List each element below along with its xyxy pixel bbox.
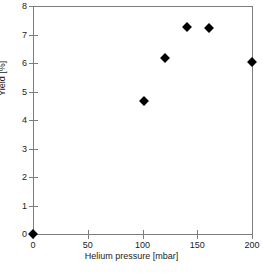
y-tick-label: 5 (22, 87, 27, 96)
x-tick-label: 0 (30, 241, 35, 250)
data-point-marker (139, 96, 149, 106)
y-tick-label: 7 (22, 30, 27, 39)
y-tick (29, 6, 38, 7)
y-tick-label: 4 (22, 116, 27, 125)
x-tick (252, 230, 253, 239)
x-tick-label: 150 (190, 241, 205, 250)
y-tick-label: 2 (22, 173, 27, 182)
y-tick-label: 6 (22, 59, 27, 68)
y-axis-title: Yield [%] (0, 61, 7, 96)
data-point-marker (161, 53, 171, 63)
y-tick (29, 92, 38, 93)
y-tick (29, 149, 38, 150)
data-point-marker (204, 23, 214, 33)
y-tick (29, 35, 38, 36)
y-tick (29, 120, 38, 121)
x-axis-title: Helium pressure [mbar] (0, 252, 263, 261)
y-tick (29, 177, 38, 178)
plot-area: 012345678 050100150200 (33, 6, 252, 234)
y-tick-label: 0 (22, 230, 27, 239)
x-tick-label: 100 (135, 241, 150, 250)
x-tick (197, 230, 198, 239)
data-point-marker (182, 22, 192, 32)
x-tick (88, 230, 89, 239)
y-tick-label: 1 (22, 201, 27, 210)
plot-frame-top (33, 6, 253, 7)
y-tick (29, 63, 38, 64)
data-point-marker (28, 229, 38, 239)
scatter-chart: 012345678 050100150200 Helium pressure [… (0, 0, 263, 274)
x-tick-label: 200 (244, 241, 259, 250)
x-tick (143, 230, 144, 239)
data-point-marker (247, 57, 257, 67)
y-tick (29, 206, 38, 207)
y-tick-label: 8 (22, 2, 27, 11)
x-tick-label: 50 (83, 241, 93, 250)
plot-frame-right (252, 6, 253, 235)
y-tick-label: 3 (22, 144, 27, 153)
